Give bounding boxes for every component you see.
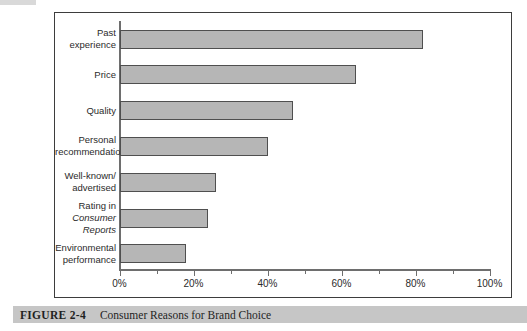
category-label: Past experience [55, 27, 116, 51]
x-axis-major-tick [342, 270, 343, 276]
bar [120, 209, 209, 228]
x-axis-minor-tick [453, 270, 454, 274]
category-label: Price [55, 69, 116, 81]
bar [120, 173, 216, 192]
x-axis-major-tick [416, 270, 417, 276]
x-axis-tick-label: 0% [100, 278, 140, 289]
figure-caption: FIGURE 2-4 Consumer Reasons for Brand Ch… [13, 306, 527, 323]
category-label: Personalrecommendations [55, 134, 116, 158]
figure-title: Consumer Reasons for Brand Choice [100, 309, 271, 321]
plot-area: Past experiencePriceQualityPersonalrecom… [55, 13, 511, 297]
x-axis-tick-label: 100% [470, 278, 510, 289]
x-axis-minor-tick [231, 270, 232, 274]
category-label: Rating inConsumer Reports [55, 200, 116, 236]
category-label: Environmentalperformance [55, 242, 116, 266]
x-axis-minor-tick [305, 270, 306, 274]
bar [120, 137, 268, 156]
page-corner-strip [0, 0, 36, 5]
category-label: Well-known/advertised [55, 170, 116, 194]
category-label: Quality [55, 105, 116, 117]
bar [120, 244, 187, 263]
bar [120, 65, 357, 84]
x-axis-major-tick [490, 270, 491, 276]
x-axis-tick-label: 40% [248, 278, 288, 289]
x-axis-major-tick [120, 270, 121, 276]
x-axis-minor-tick [157, 270, 158, 274]
page: Past experiencePriceQualityPersonalrecom… [0, 0, 527, 331]
x-axis-major-tick [268, 270, 269, 276]
chart-frame: Past experiencePriceQualityPersonalrecom… [54, 12, 512, 298]
x-axis-tick-label: 60% [322, 278, 362, 289]
x-axis-tick-label: 20% [174, 278, 214, 289]
bar [120, 30, 423, 49]
x-axis-tick-label: 80% [396, 278, 436, 289]
figure-number-label: FIGURE 2-4 [20, 309, 86, 321]
x-axis-minor-tick [379, 270, 380, 274]
bar [120, 101, 294, 120]
x-axis-major-tick [194, 270, 195, 276]
